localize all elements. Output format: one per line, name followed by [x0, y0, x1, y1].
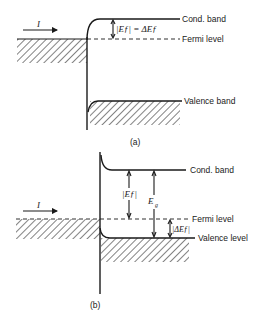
valence-hatch-b: [101, 238, 189, 262]
ef-annotation-b: |Eƒ|: [122, 189, 137, 199]
cond-band-label-a: Cond. band: [182, 14, 226, 24]
valence-label-a: Valence band: [184, 96, 236, 106]
caption-b: (b): [90, 300, 101, 310]
panel-a: I Cond. band Fermi level |Eƒ| = ΔEƒ Vale…: [17, 14, 236, 147]
delta-ef-annotation-b: |ΔEƒ|: [172, 225, 190, 234]
valence-label-b: Valence level: [198, 233, 248, 243]
panel-b: Cond. band I Fermi level Valence level |…: [16, 152, 248, 310]
eg-annotation-b: E: [147, 196, 154, 206]
fermi-label-b: Fermi level: [192, 214, 234, 224]
current-label-b: I: [36, 200, 41, 210]
metal-hatch-a: [17, 39, 87, 63]
caption-a: (a): [130, 137, 141, 147]
valence-hatch-a: [90, 101, 180, 125]
ef-annotation-a: |Eƒ| = ΔEƒ: [116, 24, 157, 34]
band-diagram: I Cond. band Fermi level |Eƒ| = ΔEƒ Vale…: [0, 0, 273, 321]
conduction-band-b: [101, 155, 186, 170]
eg-subscript-b: g: [155, 202, 158, 208]
fermi-label-a: Fermi level: [182, 34, 224, 44]
cond-band-label-b: Cond. band: [190, 165, 234, 175]
current-label-a: I: [36, 19, 41, 29]
metal-hatch-b: [16, 219, 100, 239]
